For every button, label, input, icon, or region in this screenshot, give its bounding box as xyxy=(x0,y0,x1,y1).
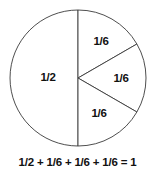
pie-slice-label: 1/6 xyxy=(93,36,108,48)
pie-slice-label: 1/6 xyxy=(113,73,128,85)
fraction-pie-figure: 1/21/61/61/6 1/2 + 1/6 + 1/6 + 1/6 = 1 xyxy=(0,0,155,181)
pie-chart: 1/21/61/61/6 xyxy=(0,0,155,152)
equation-caption: 1/2 + 1/6 + 1/6 + 1/6 = 1 xyxy=(0,156,155,168)
pie-slice-label: 1/2 xyxy=(40,72,55,84)
pie-slice-label: 1/6 xyxy=(91,108,106,120)
pie-svg xyxy=(0,0,155,152)
